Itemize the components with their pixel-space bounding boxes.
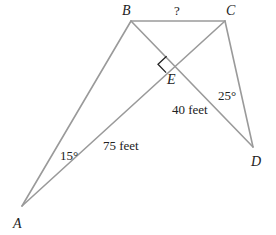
right-angle-marker [158,56,167,72]
segment-cd [225,21,253,147]
ae-length-label: 75 feet [103,138,139,153]
vertex-label-e: E [166,72,176,87]
angle-a-label: 15° [60,148,78,163]
vertex-label-c: C [226,3,236,18]
segment-ab [22,21,131,206]
ed-length-label: 40 feet [172,102,208,117]
vertex-label-d: D [250,154,261,169]
angle-d-label: 25° [218,88,236,103]
bc-unknown-label: ? [174,3,180,18]
vertex-label-b: B [122,3,131,18]
segment-bd [131,21,253,147]
vertex-label-a: A [12,216,22,231]
geometry-diagram: B C E D A ? 40 feet 25° 75 feet 15° [0,0,276,235]
